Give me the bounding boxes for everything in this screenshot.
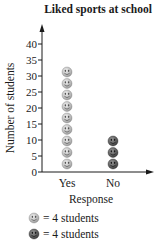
- y-tick-40: 40: [26, 38, 38, 50]
- y-tick-5: 5: [32, 150, 38, 162]
- y-tick-labels: 0 5 10 15 20 25 30 35 40: [26, 38, 38, 178]
- light-smiley-icon: [62, 159, 72, 169]
- dark-smiley-icon: [108, 136, 118, 146]
- category-label-yes: Yes: [59, 177, 76, 189]
- legend-label-light: = 4 students: [43, 212, 99, 224]
- no-symbol-column: [108, 136, 118, 169]
- pictograph-plot: 0 5 10 15 20 25 30 35 40 Number of stude…: [0, 0, 162, 210]
- y-axis-label: Number of students: [4, 62, 16, 153]
- y-tick-15: 15: [26, 118, 38, 130]
- yes-symbol-column: [62, 67, 72, 169]
- dark-smiley-icon: [28, 228, 40, 240]
- light-smiley-icon: [62, 113, 72, 123]
- y-tick-25: 25: [26, 86, 38, 98]
- dark-smiley-icon: [108, 159, 118, 169]
- category-label-no: No: [106, 177, 120, 189]
- light-smiley-icon: [62, 148, 72, 158]
- light-smiley-icon: [62, 125, 72, 135]
- legend-item-light: = 4 students: [28, 210, 99, 226]
- y-axis-arrow-icon: [40, 24, 45, 32]
- legend: = 4 students = 4 students: [28, 210, 99, 242]
- x-axis-label: Response: [69, 193, 113, 206]
- y-tick-35: 35: [26, 54, 38, 66]
- light-smiley-icon: [62, 102, 72, 112]
- light-smiley-icon: [62, 67, 72, 77]
- light-smiley-icon: [62, 136, 72, 146]
- y-tick-30: 30: [26, 70, 38, 82]
- light-smiley-icon: [62, 90, 72, 100]
- y-tick-10: 10: [26, 134, 38, 146]
- y-ticks: [38, 44, 42, 172]
- light-smiley-icon: [62, 79, 72, 89]
- y-tick-0: 0: [32, 166, 38, 178]
- dark-smiley-icon: [108, 148, 118, 158]
- y-tick-20: 20: [26, 102, 38, 114]
- legend-item-dark: = 4 students: [28, 226, 99, 242]
- light-smiley-icon: [28, 212, 40, 224]
- x-axis-arrow-icon: [146, 170, 154, 175]
- legend-label-dark: = 4 students: [43, 228, 99, 240]
